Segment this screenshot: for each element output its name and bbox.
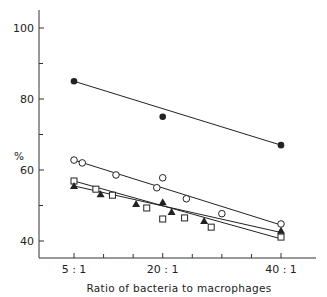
y-tick-label: 40 <box>20 235 34 248</box>
data-point-open-circle <box>71 157 78 164</box>
data-point-open-square <box>93 186 99 192</box>
data-point-open-circle <box>159 175 166 182</box>
data-point-open-square <box>109 192 115 198</box>
y-tick-label: 60 <box>20 164 34 177</box>
fit-line <box>74 81 281 145</box>
data-point-open-circle <box>183 195 190 202</box>
data-point-open-circle <box>154 184 161 191</box>
data-point-open-square <box>160 216 166 222</box>
data-point-open-circle <box>219 210 226 217</box>
x-tick-label: 20 : 1 <box>147 263 179 276</box>
data-point-open-square <box>182 215 188 221</box>
y-tick-label: 100 <box>13 22 34 35</box>
chart: 406080100 5 : 120 : 140 : 1 % Ratio of b… <box>0 0 327 297</box>
data-point-filled-circle <box>278 142 285 149</box>
data-point-open-circle <box>278 221 285 228</box>
data-point-open-circle <box>79 160 86 167</box>
data-point-filled-circle <box>71 78 78 85</box>
data-point-open-square <box>208 224 214 230</box>
y-axis-title: % <box>14 150 24 162</box>
x-ticks: 5 : 120 : 140 : 1 <box>62 253 297 276</box>
data-point-filled-circle <box>159 113 166 120</box>
data-point-filled-triangle <box>277 227 285 234</box>
fit-line <box>74 181 281 239</box>
y-tick-label: 80 <box>20 93 34 106</box>
fit-lines <box>74 81 281 239</box>
data-point-filled-triangle <box>132 200 140 207</box>
x-axis-title: Ratio of bacteria to macrophages <box>87 282 272 294</box>
data-point-open-square <box>144 205 150 211</box>
x-tick-label: 5 : 1 <box>62 263 87 276</box>
data-point-filled-triangle <box>159 198 167 205</box>
data-point-open-circle <box>113 172 120 179</box>
x-tick-label: 40 : 1 <box>265 263 297 276</box>
data-point-open-square <box>278 234 284 240</box>
